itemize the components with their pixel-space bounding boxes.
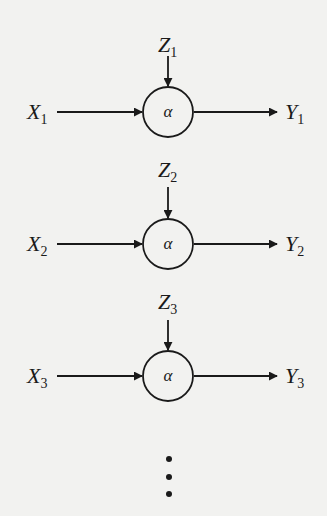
ellipsis-dot-2 — [166, 474, 172, 480]
diagram-canvas: Z1 X1 α Y1 Z2 X2 α Y2 Z3 X3 α Y3 — [0, 0, 327, 516]
alpha-label-2: α — [164, 234, 174, 253]
ellipsis-dot-1 — [166, 456, 172, 462]
x3-label: X3 — [26, 363, 47, 391]
y3-label: Y3 — [285, 363, 304, 391]
node-group-2: Z2 X2 α Y2 — [26, 157, 304, 269]
z2-label: Z2 — [158, 157, 177, 185]
alpha-label-1: α — [164, 102, 174, 121]
vertical-ellipsis — [166, 456, 172, 497]
node-group-1: Z1 X1 α Y1 — [26, 32, 304, 137]
x1-label: X1 — [26, 99, 47, 127]
node-group-3: Z3 X3 α Y3 — [26, 289, 304, 401]
ellipsis-dot-3 — [166, 491, 172, 497]
y1-label: Y1 — [285, 99, 304, 127]
alpha-label-3: α — [164, 366, 174, 385]
x2-label: X2 — [26, 231, 47, 259]
z3-label: Z3 — [158, 289, 177, 317]
z1-label: Z1 — [158, 32, 177, 60]
y2-label: Y2 — [285, 231, 304, 259]
